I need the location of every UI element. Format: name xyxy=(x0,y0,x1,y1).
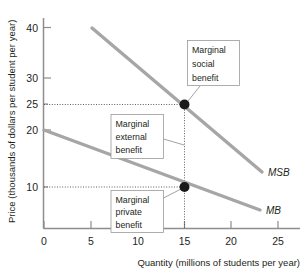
y-axis-title: Price (thousands of dollars per student … xyxy=(6,20,17,223)
x-axis-title: Quantity (millions of students per year) xyxy=(137,257,300,268)
marginal-social-benefit-line-3: benefit xyxy=(192,73,219,83)
marginal-private-benefit-line-2: private xyxy=(116,207,143,217)
private-benefit-point xyxy=(180,182,190,192)
x-tick-label-20: 20 xyxy=(225,235,237,247)
mb-curve-label: MB xyxy=(266,205,281,216)
marginal-external-benefit-line-2: external xyxy=(116,132,147,142)
y-tick-label-20: 20 xyxy=(26,124,38,136)
msb-curve-label: MSB xyxy=(268,167,290,178)
x-tick-label-15: 15 xyxy=(179,235,191,247)
social-benefit-point xyxy=(180,100,190,110)
marginal-external-benefit-line-1: Marginal xyxy=(116,119,150,129)
private-benefit-leader xyxy=(164,188,184,198)
x-tick-label-25: 25 xyxy=(272,235,284,247)
marginal-social-benefit-line-1: Marginal xyxy=(192,45,226,55)
x-axis-tick-labels: 0 5 10 15 20 25 xyxy=(41,235,284,247)
y-axis-ticks xyxy=(44,28,52,188)
y-tick-label-25: 25 xyxy=(26,98,38,110)
x-tick-label-10: 10 xyxy=(132,235,144,247)
x-tick-label-0: 0 xyxy=(41,235,47,247)
external-benefit-leader xyxy=(164,139,185,145)
x-tick-label-5: 5 xyxy=(88,235,94,247)
marginal-private-benefit-callout: Marginal private benefit xyxy=(111,191,164,233)
marginal-social-benefit-line-2: social xyxy=(192,59,215,69)
y-tick-label-10: 10 xyxy=(26,181,38,193)
marginal-benefit-chart: 40 30 25 20 10 0 5 10 15 20 25 Price (th… xyxy=(0,0,305,275)
marginal-external-benefit-line-3: benefit xyxy=(116,145,143,155)
y-axis-tick-labels: 40 30 25 20 10 xyxy=(26,22,38,194)
chart-canvas: 40 30 25 20 10 0 5 10 15 20 25 Price (th… xyxy=(0,0,305,275)
axes xyxy=(44,18,301,229)
marginal-private-benefit-line-3: benefit xyxy=(116,220,143,230)
y-tick-label-40: 40 xyxy=(26,22,38,34)
marginal-external-benefit-callout: Marginal external benefit xyxy=(111,115,164,159)
social-benefit-leader xyxy=(187,86,201,103)
marginal-social-benefit-callout: Marginal social benefit xyxy=(188,41,240,86)
marginal-private-benefit-line-1: Marginal xyxy=(116,195,150,205)
y-tick-label-30: 30 xyxy=(26,72,38,84)
